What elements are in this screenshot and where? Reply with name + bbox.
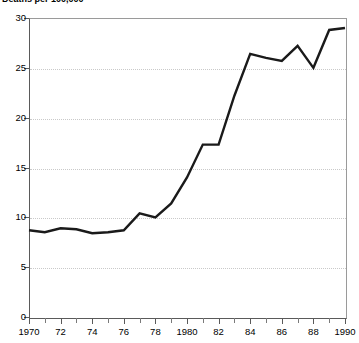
x-tick-mark-1983 xyxy=(234,318,235,323)
x-tick-mark-1970 xyxy=(29,318,30,324)
y-tick-label-30: 30 xyxy=(15,13,26,23)
x-tick-mark-1982 xyxy=(219,318,220,324)
x-tick-mark-1976 xyxy=(124,318,125,324)
x-tick-mark-1971 xyxy=(45,318,46,323)
x-tick-label-1974: 74 xyxy=(87,327,98,337)
x-tick-mark-1988 xyxy=(313,318,314,324)
y-tick-label-25: 25 xyxy=(15,63,26,73)
x-tick-mark-1979 xyxy=(171,318,172,323)
y-tick-label-15: 15 xyxy=(15,163,26,173)
line-chart: Deaths per 100,000 051015202530 19707274… xyxy=(0,0,359,343)
x-tick-mark-1977 xyxy=(140,318,141,323)
x-tick-label-1990: 1990 xyxy=(334,327,355,337)
y-tick-label-5: 5 xyxy=(21,262,26,272)
data-series-layer xyxy=(29,18,345,317)
x-tick-mark-1990 xyxy=(345,318,346,324)
x-tick-mark-1973 xyxy=(76,318,77,323)
chart-title: Deaths per 100,000 xyxy=(2,0,84,5)
x-tick-mark-1972 xyxy=(61,318,62,324)
x-tick-mark-1986 xyxy=(282,318,283,324)
x-tick-label-1970: 1970 xyxy=(18,327,39,337)
y-tick-label-10: 10 xyxy=(15,212,26,222)
x-tick-mark-1985 xyxy=(266,318,267,323)
x-tick-mark-1984 xyxy=(250,318,251,324)
x-tick-label-1980: 1980 xyxy=(176,327,197,337)
x-tick-label-1978: 78 xyxy=(150,327,161,337)
x-tick-label-1984: 84 xyxy=(245,327,256,337)
x-tick-mark-1989 xyxy=(329,318,330,323)
x-tick-mark-1980 xyxy=(187,318,188,324)
x-tick-label-1982: 82 xyxy=(213,327,224,337)
x-tick-mark-1978 xyxy=(155,318,156,324)
x-tick-mark-1974 xyxy=(92,318,93,324)
y-tick-label-20: 20 xyxy=(15,113,26,123)
x-tick-label-1986: 86 xyxy=(277,327,288,337)
y-tick-label-0: 0 xyxy=(21,312,26,322)
x-tick-mark-1981 xyxy=(203,318,204,323)
x-tick-mark-1975 xyxy=(108,318,109,323)
x-tick-label-1972: 72 xyxy=(55,327,66,337)
x-tick-label-1976: 76 xyxy=(119,327,130,337)
series-line-deaths-per-100000 xyxy=(29,28,345,233)
x-tick-label-1988: 88 xyxy=(308,327,319,337)
x-tick-mark-1987 xyxy=(298,318,299,323)
